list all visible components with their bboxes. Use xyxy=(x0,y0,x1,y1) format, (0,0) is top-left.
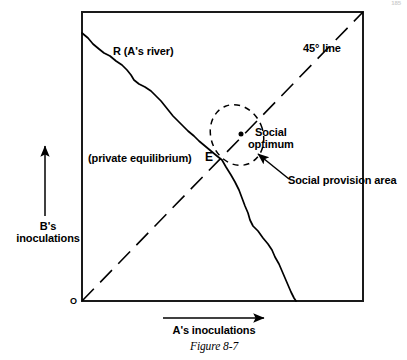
page-number: 185 xyxy=(391,0,401,7)
social-provision-area-label: Social provision area xyxy=(288,174,397,186)
origin-label: O xyxy=(70,296,77,306)
private-equilibrium-label: (private equilibrium) xyxy=(88,152,192,164)
social-optimum-dot xyxy=(239,132,244,137)
figure-8-7: 185 R (A's river) 45° line (private equi… xyxy=(0,0,407,360)
figure-caption: Figure 8-7 xyxy=(150,340,278,353)
equilibrium-point-label: E xyxy=(205,151,213,164)
social-optimum-label: Socialoptimum xyxy=(248,126,294,151)
social-provision-leader-arrow xyxy=(258,154,289,179)
forty-five-degree-line-label: 45° line xyxy=(303,42,341,54)
river-label: R (A's river) xyxy=(113,45,174,57)
x-axis-label: A's inoculations xyxy=(150,324,278,336)
y-axis-label: B'sinoculations xyxy=(6,220,90,245)
river-curve xyxy=(82,33,296,301)
